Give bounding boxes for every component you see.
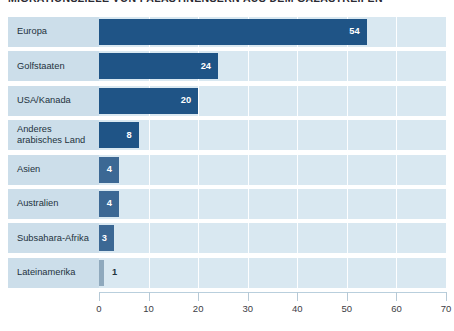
axis-tick xyxy=(248,292,249,301)
gridline xyxy=(248,51,249,81)
category-label: USA/Kanada xyxy=(8,86,99,116)
gridline xyxy=(198,223,199,253)
gridline xyxy=(297,155,298,185)
axis-tick-label: 70 xyxy=(441,303,452,314)
gridline xyxy=(248,223,249,253)
axis-tick xyxy=(198,292,199,301)
gridline xyxy=(198,189,199,219)
axis-tick-label: 20 xyxy=(193,303,204,314)
bar-value-label: 20 xyxy=(181,96,198,105)
gridline xyxy=(396,17,397,47)
gridline xyxy=(347,258,348,288)
category-label-line: Europa xyxy=(17,26,99,38)
gridline xyxy=(297,120,298,150)
gridline xyxy=(396,258,397,288)
category-label: Golfstaaten xyxy=(8,51,99,81)
chart-row: Europa54 xyxy=(8,17,446,47)
gridline xyxy=(248,189,249,219)
gridline xyxy=(248,120,249,150)
gridline xyxy=(149,155,150,185)
gridline xyxy=(297,51,298,81)
category-label-line: USA/Kanada xyxy=(17,95,99,107)
gridline xyxy=(446,86,447,116)
axis-tick xyxy=(396,292,397,301)
bar: 3 xyxy=(99,225,114,251)
bar: 4 xyxy=(99,157,119,183)
category-label: Asien xyxy=(8,155,99,185)
gridline xyxy=(149,258,150,288)
gridline xyxy=(347,155,348,185)
bar-value-label: 4 xyxy=(107,199,119,208)
bar-value-label: 8 xyxy=(126,131,138,140)
chart-row: Australien4 xyxy=(8,189,446,219)
axis-tick-label: 60 xyxy=(391,303,402,314)
gridline xyxy=(347,189,348,219)
category-label-line: Golfstaaten xyxy=(17,61,99,73)
row-track: 4 xyxy=(99,189,446,219)
category-label-line: Subsahara-Afrika xyxy=(17,233,99,245)
category-label-line: Australien xyxy=(17,198,99,210)
gridline xyxy=(347,223,348,253)
axis-tick-label: 30 xyxy=(242,303,253,314)
gridline xyxy=(347,51,348,81)
x-axis-line xyxy=(99,292,446,293)
gridline xyxy=(446,51,447,81)
category-label-line: arabisches Land xyxy=(17,135,99,147)
gridline xyxy=(149,223,150,253)
gridline xyxy=(396,189,397,219)
gridline xyxy=(396,223,397,253)
gridline xyxy=(446,258,447,288)
bar: 20 xyxy=(99,88,198,114)
bar: 4 xyxy=(99,191,119,217)
gridline xyxy=(297,258,298,288)
axis-tick-label: 40 xyxy=(292,303,303,314)
bar-value-label: 4 xyxy=(107,165,119,174)
gridline xyxy=(446,17,447,47)
gridline xyxy=(149,189,150,219)
bar-value-label: 3 xyxy=(102,234,114,243)
bar-value-label: 54 xyxy=(349,27,366,36)
bar: 54 xyxy=(99,19,367,45)
row-track: 8 xyxy=(99,120,446,150)
chart-title: MIGRATIONSZIELE VON PALÄSTINENSERN AUS D… xyxy=(8,0,448,5)
chart-row: USA/Kanada20 xyxy=(8,86,446,116)
gridline xyxy=(446,223,447,253)
category-label: Lateinamerika xyxy=(8,258,99,288)
row-track: 24 xyxy=(99,51,446,81)
bar: 24 xyxy=(99,53,218,79)
bar-value-label: 24 xyxy=(201,62,218,71)
axis-tick xyxy=(297,292,298,301)
axis-tick xyxy=(446,292,447,301)
bar-chart-plot-area: Europa54Golfstaaten24USA/Kanada20Anderes… xyxy=(8,17,446,292)
axis-tick-label: 50 xyxy=(342,303,353,314)
axis-tick-label: 10 xyxy=(143,303,154,314)
chart-row: Golfstaaten24 xyxy=(8,51,446,81)
gridline xyxy=(446,155,447,185)
axis-tick xyxy=(149,292,150,301)
category-label: Australien xyxy=(8,189,99,219)
chart-row: Anderesarabisches Land8 xyxy=(8,120,446,150)
chart-row: Asien4 xyxy=(8,155,446,185)
gridline xyxy=(198,258,199,288)
gridline xyxy=(198,120,199,150)
gridline xyxy=(446,120,447,150)
gridline xyxy=(347,86,348,116)
row-track: 20 xyxy=(99,86,446,116)
gridline xyxy=(248,258,249,288)
gridline xyxy=(248,86,249,116)
category-label: Subsahara-Afrika xyxy=(8,223,99,253)
chart-row: Lateinamerika1 xyxy=(8,258,446,288)
gridline xyxy=(297,223,298,253)
row-track: 4 xyxy=(99,155,446,185)
bar-value-label: 1 xyxy=(104,268,117,277)
gridline xyxy=(396,86,397,116)
category-label: Europa xyxy=(8,17,99,47)
row-track: 1 xyxy=(99,258,446,288)
gridline xyxy=(198,86,199,116)
chart-row: Subsahara-Afrika3 xyxy=(8,223,446,253)
gridline xyxy=(198,155,199,185)
category-label-line: Anderes xyxy=(17,124,99,136)
axis-tick xyxy=(99,292,100,301)
category-label: Anderesarabisches Land xyxy=(8,120,99,150)
row-track: 54 xyxy=(99,17,446,47)
